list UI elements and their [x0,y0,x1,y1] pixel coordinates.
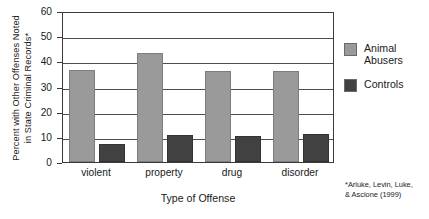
bar [303,134,329,162]
chart-legend: Animal AbusersControls [344,42,429,104]
y-tick-label-wrap: 40 [0,57,52,67]
y-tick-label: 20 [14,108,52,118]
bar [99,144,125,162]
y-tick-label: 60 [14,7,52,17]
chart-footnote: *Arluke, Levin, Luke, & Ascione (1999) [345,180,429,199]
y-tick-label-wrap: 60 [0,7,52,17]
bar [273,71,299,162]
legend-swatch-icon [344,79,357,92]
bar [137,53,163,162]
legend-item[interactable]: Animal Abusers [344,42,429,66]
y-tick-label-wrap: 0 [0,158,52,168]
legend-swatch-icon [344,43,357,56]
x-tick-label: property [130,167,198,178]
bar [235,136,261,162]
bar [69,70,95,162]
legend-item[interactable]: Controls [344,78,429,92]
bar [205,71,231,162]
y-tick-label-wrap: 50 [0,32,52,42]
plot-area [62,12,334,163]
legend-label: Animal Abusers [364,42,403,66]
x-tick-label: violent [62,167,130,178]
y-tick-label: 0 [14,158,52,168]
y-tick-mark [57,163,62,164]
plot-inner [63,13,333,162]
y-tick-label-wrap: 20 [0,108,52,118]
bar-group [131,13,199,162]
y-tick-label: 30 [14,83,52,93]
legend-label: Controls [364,78,403,90]
y-tick-label-wrap: 10 [0,133,52,143]
x-tick-label: disorder [266,167,334,178]
bar-group [267,13,335,162]
x-axis-title: Type of Offense [62,192,334,204]
y-tick-label-wrap: 30 [0,83,52,93]
bar-group [63,13,131,162]
x-tick-label: drug [198,167,266,178]
y-tick-label: 50 [14,32,52,42]
bar [167,135,193,162]
bar-group [199,13,267,162]
y-tick-label: 10 [14,133,52,143]
y-tick-label: 40 [14,57,52,67]
bar-chart-figure: Percent with Other Offenses Noted in Sta… [0,0,429,219]
